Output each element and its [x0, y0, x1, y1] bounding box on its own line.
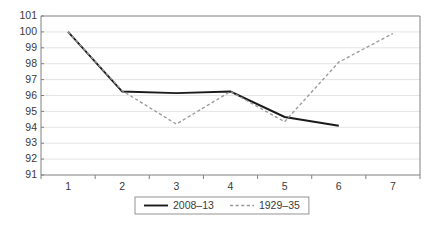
x-axis-tick-label: 7: [390, 180, 396, 192]
x-axis-tick-label: 4: [228, 180, 234, 192]
legend-label: 1929–35: [259, 199, 300, 211]
y-axis-tick-label: 95: [25, 105, 37, 117]
x-axis-tick-label: 5: [282, 180, 288, 192]
y-axis-tick-label: 99: [25, 41, 37, 53]
x-axis-tick-label: 6: [336, 180, 342, 192]
line-chart: 101100999897969594939291 1234567 2008–13…: [0, 0, 443, 228]
y-axis-tick-label: 94: [25, 121, 37, 133]
x-axis-tick-label: 2: [119, 180, 125, 192]
y-axis-tick-label: 93: [25, 136, 37, 148]
y-axis-tick-label: 100: [19, 25, 37, 37]
x-axis-tick-label: 3: [173, 180, 179, 192]
y-axis-tick-label: 101: [19, 9, 37, 21]
y-axis-tick-label: 97: [25, 73, 37, 85]
x-axis-tick-label: 1: [65, 180, 71, 192]
y-axis-tick-label: 98: [25, 57, 37, 69]
y-axis-tick-label: 91: [25, 168, 37, 180]
x-axis-tick-marks: [41, 175, 420, 179]
legend-label: 2008–13: [173, 199, 214, 211]
y-axis-tick-labels: 101100999897969594939291: [19, 9, 37, 180]
x-axis-tick-labels: 1234567: [65, 180, 396, 192]
chart-legend: 2008–131929–35: [135, 197, 309, 214]
y-axis-tick-label: 96: [25, 89, 37, 101]
chart-canvas: 101100999897969594939291 1234567 2008–13…: [0, 0, 443, 228]
y-axis-tick-label: 92: [25, 152, 37, 164]
